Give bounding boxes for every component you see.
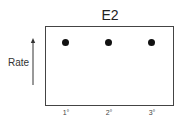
x-tick-label-2: 2° <box>101 109 117 116</box>
data-point-3 <box>148 39 155 46</box>
plot-area <box>45 26 174 106</box>
chart-title: E2 <box>45 7 175 23</box>
x-tick-label-1: 1° <box>58 109 74 116</box>
data-point-1 <box>62 39 69 46</box>
y-axis-arrow-icon <box>30 38 36 86</box>
y-axis-label: Rate <box>8 57 29 68</box>
data-point-2 <box>105 39 112 46</box>
x-tick-label-3: 3° <box>144 109 160 116</box>
